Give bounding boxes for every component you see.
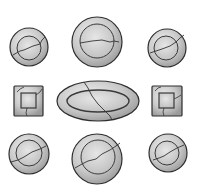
cracked-plate-bottom-right (149, 134, 187, 172)
cracked-plate-bottom-center (72, 134, 122, 184)
cracked-square-plate-left (14, 86, 43, 116)
cracked-plate-top-right (148, 29, 186, 67)
broken-plates-illustration (0, 0, 206, 196)
cracked-plate-top-left (10, 28, 48, 66)
cracked-plate-bottom-left (9, 134, 49, 174)
cracked-oval-platter (57, 81, 139, 121)
cracked-plate-top-center (72, 17, 122, 67)
cracked-square-plate-right (152, 86, 182, 116)
